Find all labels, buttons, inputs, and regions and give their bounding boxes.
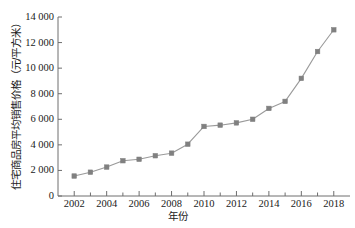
- x-axis-title: 年份: [0, 208, 355, 223]
- y-tick-label: 8 000: [6, 89, 54, 99]
- y-tick-label: 4 000: [6, 140, 54, 150]
- y-tick-label: 0: [6, 191, 54, 201]
- y-axis-tick-labels: 02 0004 0006 0008 00010 00012 00014 000: [0, 0, 54, 228]
- data-line: [74, 30, 334, 176]
- y-tick-label: 6 000: [6, 114, 54, 124]
- y-tick-label: 14 000: [6, 12, 54, 22]
- line-chart-svg: [58, 17, 350, 196]
- y-tick-label: 10 000: [6, 63, 54, 73]
- data-point-markers: [72, 27, 336, 178]
- chart-figure: 住宅商品房平均销售价格（元/平方米） 02 0004 0006 0008 000…: [0, 0, 355, 228]
- y-tick-label: 12 000: [6, 38, 54, 48]
- y-tick-label: 2 000: [6, 165, 54, 175]
- plot-area: [58, 17, 350, 196]
